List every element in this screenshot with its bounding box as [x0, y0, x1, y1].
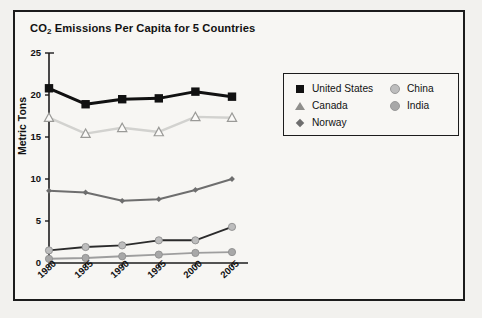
series-china [45, 223, 235, 254]
legend-item-label: China [407, 83, 434, 94]
data-point [45, 247, 52, 254]
legend-column-right: ChinaIndia [388, 80, 434, 114]
data-point [155, 237, 162, 244]
y-axis-tick-label: 0 [19, 257, 41, 268]
legend-triangle-icon [293, 99, 307, 113]
circle-marker [390, 84, 400, 94]
y-axis-tick-label: 10 [19, 173, 41, 184]
data-point [192, 249, 199, 256]
data-point [45, 84, 53, 92]
series-india [45, 248, 235, 262]
data-point [228, 92, 236, 100]
data-point [82, 243, 89, 250]
legend-item-label: Canada [312, 100, 348, 111]
legend-item-label: India [407, 100, 429, 111]
data-point [119, 198, 125, 204]
data-point [81, 100, 89, 108]
data-point [118, 95, 126, 103]
data-point [228, 248, 235, 255]
chart-legend: United StatesCanadaNorway ChinaIndia [283, 73, 459, 136]
data-point [228, 223, 235, 230]
diamond-marker [296, 118, 304, 126]
circle-marker [390, 101, 400, 111]
series-norway [46, 176, 235, 204]
data-point [155, 251, 162, 258]
series-canada [44, 112, 236, 137]
legend-item-india[interactable]: India [388, 97, 434, 114]
data-point [156, 196, 162, 202]
series-line [49, 88, 232, 104]
series-line [49, 117, 232, 134]
y-axis-tick-label: 25 [19, 47, 41, 58]
legend-column-left: United StatesCanadaNorway [293, 80, 373, 131]
data-point [119, 242, 126, 249]
data-point [83, 190, 89, 196]
legend-circle-icon [388, 82, 402, 96]
data-point [192, 237, 199, 244]
series-line [49, 227, 232, 251]
legend-item-united-states[interactable]: United States [293, 80, 373, 97]
data-point [229, 176, 235, 182]
data-point [191, 87, 199, 95]
data-point [193, 187, 199, 193]
triangle-marker [295, 102, 305, 110]
series-line [49, 252, 232, 259]
series-united-states [45, 84, 236, 108]
series-line [49, 179, 232, 201]
data-point [155, 94, 163, 102]
data-point [46, 188, 52, 194]
legend-circle-icon [388, 99, 402, 113]
legend-item-canada[interactable]: Canada [293, 97, 373, 114]
y-axis-tick-label: 20 [19, 89, 41, 100]
y-axis-tick-label: 15 [19, 131, 41, 142]
legend-item-china[interactable]: China [388, 80, 434, 97]
legend-item-norway[interactable]: Norway [293, 114, 373, 131]
square-marker [296, 85, 304, 93]
y-axis-tick-label: 5 [19, 215, 41, 226]
legend-diamond-icon [293, 116, 307, 130]
legend-item-label: Norway [312, 117, 347, 128]
legend-item-label: United States [312, 83, 373, 94]
data-point [44, 113, 53, 121]
legend-square-icon [293, 82, 307, 96]
